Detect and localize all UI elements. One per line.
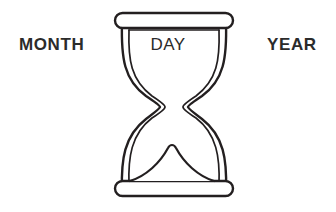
label-year: YEAR — [267, 36, 317, 53]
hourglass-graphic — [0, 0, 336, 212]
hourglass-icon — [0, 0, 336, 212]
hourglass-top-cap-icon — [115, 13, 233, 28]
diagram-canvas: MONTH DAY YEAR — [0, 0, 336, 212]
sand-mound-icon — [130, 145, 214, 181]
hourglass-bottom-cap-icon — [115, 181, 233, 196]
